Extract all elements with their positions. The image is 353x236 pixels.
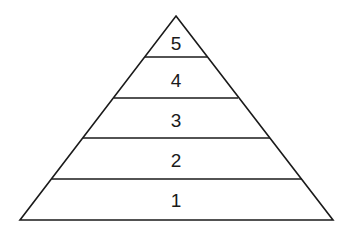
level-5-label: 5 bbox=[171, 33, 182, 54]
level-1-label: 1 bbox=[171, 190, 182, 211]
level-2-label: 2 bbox=[171, 150, 182, 171]
level-3-label: 3 bbox=[171, 110, 182, 131]
pyramid-diagram: 5 4 3 2 1 bbox=[0, 0, 353, 236]
level-4-label: 4 bbox=[171, 70, 182, 91]
